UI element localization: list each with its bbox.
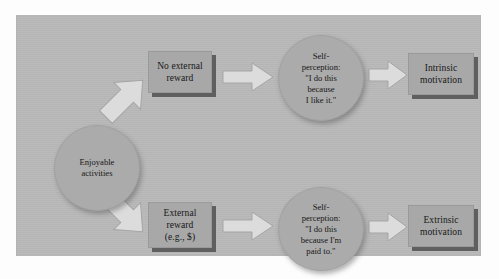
arrow-external-reward-to-self-perception-icon (222, 211, 274, 241)
arrow-self-perception-to-intrinsic-motivation-icon (368, 60, 408, 90)
node-extrinsic-motivation-label: Extrinsic motivation (416, 214, 466, 238)
node-external-reward-label: External reward (e.g., $) (160, 207, 201, 243)
diagram-panel: Enjoyable activities No external reward … (16, 15, 481, 256)
node-intrinsic-motivation: Intrinsic motivation (408, 53, 474, 95)
node-no-external-reward: No external reward (148, 51, 212, 93)
node-self-perception-intrinsic-label: Self- perception: "I do this because I l… (298, 51, 345, 106)
node-enjoyable-activities: Enjoyable activities (54, 125, 140, 211)
node-self-perception-extrinsic-label: Self- perception: "I do this because I'm… (297, 202, 345, 257)
node-external-reward: External reward (e.g., $) (148, 202, 212, 248)
node-self-perception-intrinsic: Self- perception: "I do this because I l… (278, 35, 364, 121)
node-no-external-reward-label: No external reward (153, 60, 207, 84)
arrow-self-perception-to-extrinsic-motivation-icon (368, 212, 408, 242)
node-extrinsic-motivation: Extrinsic motivation (408, 205, 474, 247)
arrow-no-external-reward-to-self-perception-icon (222, 62, 274, 92)
node-self-perception-extrinsic: Self- perception: "I do this because I'm… (278, 187, 364, 271)
arrow-enjoyable-to-no-external-reward-icon (94, 67, 156, 129)
node-enjoyable-activities-label: Enjoyable activities (76, 157, 119, 179)
diagram-figure: Enjoyable activities No external reward … (0, 0, 499, 279)
node-intrinsic-motivation-label: Intrinsic motivation (416, 62, 466, 86)
